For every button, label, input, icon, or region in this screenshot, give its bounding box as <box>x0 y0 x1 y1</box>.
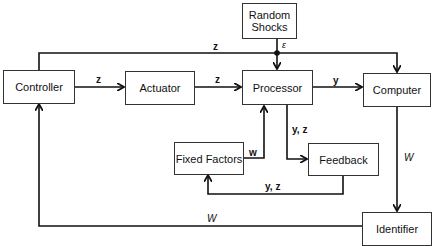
edge-label-identifier-controller: W <box>207 214 216 224</box>
identifier-node: Identifier <box>362 212 432 246</box>
edge-label-processor-feedback: y, z <box>292 125 307 135</box>
random-shocks-node: Random Shocks <box>242 3 297 39</box>
feedback-label: Feedback <box>319 154 367 166</box>
actuator-label: Actuator <box>140 82 181 94</box>
feedback-node: Feedback <box>308 143 379 176</box>
identifier-label: Identifier <box>376 223 418 235</box>
edge-label-controller-actuator: z <box>96 75 101 85</box>
random-shocks-label-1: Random <box>249 9 291 21</box>
computer-node: Computer <box>363 73 431 107</box>
fixed-factors-label: Fixed Factors <box>176 153 243 165</box>
edge-label-actuator-processor: z <box>215 75 220 85</box>
fixed-factors-node: Fixed Factors <box>174 142 244 175</box>
computer-label: Computer <box>373 84 421 96</box>
edge-label-top-z: z <box>213 42 218 52</box>
edge-label-computer-identifier: W <box>404 153 413 163</box>
edge-label-w-fixed: w <box>249 148 257 158</box>
processor-label: Processor <box>253 82 303 94</box>
random-shocks-label-2: Shocks <box>251 21 287 33</box>
controller-label: Controller <box>15 81 63 93</box>
edge-label-feedback-fixed: y, z <box>265 182 280 192</box>
edge-label-epsilon: ε <box>282 40 286 50</box>
processor-node: Processor <box>242 70 313 105</box>
junction-dot <box>274 50 280 56</box>
actuator-node: Actuator <box>125 71 195 105</box>
edge-label-processor-computer: y <box>333 76 339 86</box>
controller-node: Controller <box>3 70 75 104</box>
